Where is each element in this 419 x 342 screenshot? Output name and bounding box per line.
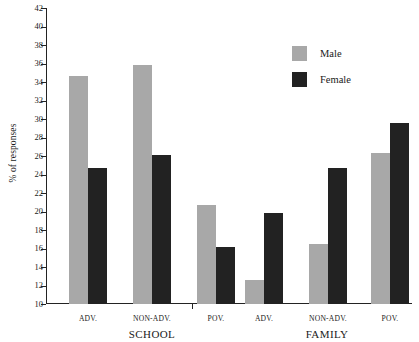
y-tick-label: 30	[35, 113, 44, 125]
y-tick-label: 12	[35, 279, 44, 291]
legend-swatch-female-icon	[292, 72, 307, 87]
bar	[69, 76, 88, 304]
y-tick-label: 40	[35, 20, 44, 32]
category-label: POV.	[350, 314, 419, 323]
plot-area: 1012141618202224262830323436384042 ADV.N…	[46, 8, 412, 304]
y-tick-label: 14	[35, 261, 44, 273]
y-tick-label: 22	[35, 187, 44, 199]
y-tick-label: 10	[35, 298, 44, 310]
y-tick-label: 38	[35, 39, 44, 51]
legend-item-male: Male	[292, 40, 351, 66]
bar	[133, 65, 152, 304]
y-tick-label: 20	[35, 205, 44, 217]
y-tick-label: 34	[35, 76, 44, 88]
bar	[264, 213, 283, 304]
bar	[309, 244, 328, 304]
y-axis-line	[46, 8, 47, 304]
bar	[152, 155, 171, 304]
group-label: FAMILY	[267, 328, 387, 340]
y-tick-label: 42	[35, 2, 44, 14]
bar-chart: % of responses 1012141618202224262830323…	[0, 0, 419, 342]
y-axis-label: % of responses	[8, 88, 18, 218]
bar	[245, 280, 264, 304]
y-tick-label: 32	[35, 94, 44, 106]
legend-item-female: Female	[292, 66, 351, 92]
bar	[390, 123, 409, 304]
bar	[328, 168, 347, 304]
bar	[371, 153, 390, 304]
y-tick-label: 36	[35, 57, 44, 69]
legend-label-female: Female	[320, 74, 351, 85]
group-label: SCHOOL	[92, 328, 212, 340]
y-tick-label: 24	[35, 168, 44, 180]
y-tick-label: 16	[35, 242, 44, 254]
bar	[88, 168, 107, 304]
y-tick-label: 28	[35, 131, 44, 143]
bar	[216, 247, 235, 304]
bar	[197, 205, 216, 304]
y-tick-label: 26	[35, 150, 44, 162]
y-tick-label: 18	[35, 224, 44, 236]
chart-legend: Male Female	[292, 40, 351, 92]
group-separator-tick	[192, 303, 193, 309]
legend-swatch-male-icon	[292, 46, 307, 61]
legend-label-male: Male	[320, 48, 342, 59]
